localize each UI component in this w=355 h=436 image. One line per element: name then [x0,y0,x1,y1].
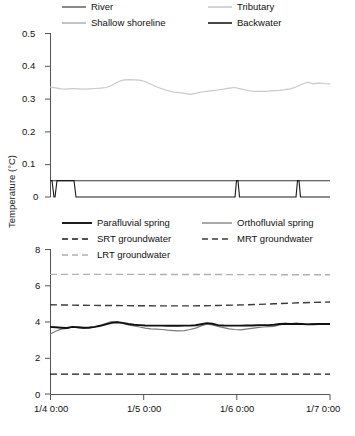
temperature-time-series-figure: Temperature (°C) River Tributary Shallow… [0,0,355,436]
xtick-label-2: 1/6 0:00 [220,404,254,414]
xtick-label-3: 1/7 0:00 [306,404,340,414]
series-parafluvial-spring [50,322,330,328]
xtick-label-0: 1/4 0:00 [34,404,68,414]
xtick-label-1: 1/5 0:00 [127,404,161,414]
bottom-panel-plot [0,0,355,436]
series-mrt-groundwater [50,302,330,306]
